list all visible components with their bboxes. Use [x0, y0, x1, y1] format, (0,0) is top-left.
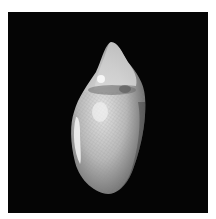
- shell-image: [8, 12, 208, 213]
- photo-frame: [8, 12, 208, 213]
